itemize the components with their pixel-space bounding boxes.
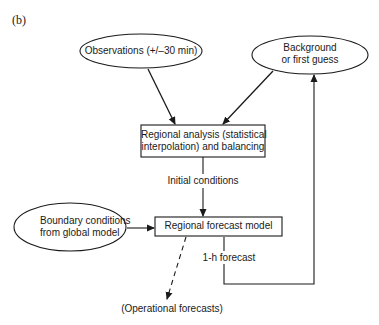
observations-text: Observations (+/–30 min) (85, 45, 198, 56)
background-line2: or first guess (262, 54, 358, 66)
operational-forecasts-label: (Operational forecasts) (120, 303, 224, 315)
observations-label: Observations (+/–30 min) (84, 45, 198, 57)
boundary-line1: Boundary conditions (40, 215, 120, 227)
boundary-label: Boundary conditions from global model (20, 215, 120, 239)
obs-to-analysis-arrow (148, 69, 175, 124)
boundary-line2: from global model (40, 227, 120, 239)
forecast-model-label: Regional forecast model (155, 220, 282, 232)
analysis-line1: Regional analysis (statistical (141, 129, 265, 141)
background-line1: Background (262, 42, 358, 54)
model-to-operational-dashed-arrow (167, 237, 186, 299)
initial-conditions-label: Initial conditions (163, 175, 243, 187)
bg-to-analysis-arrow (223, 71, 273, 124)
analysis-label: Regional analysis (statistical interpola… (141, 129, 265, 153)
panel-label: (b) (12, 13, 26, 28)
background-label: Background or first guess (262, 42, 358, 66)
one-hour-forecast-label: 1-h forecast (199, 252, 259, 264)
analysis-line2: interpolation) and balancing (141, 141, 265, 153)
